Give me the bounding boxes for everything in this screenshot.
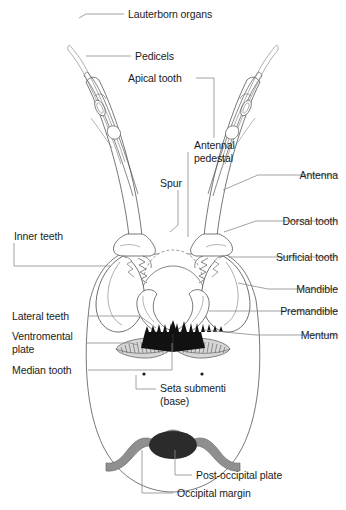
label-spur: Spur	[160, 177, 182, 190]
label-mandible: Mandible	[296, 283, 338, 296]
label-surficial-tooth: Surficial tooth	[276, 251, 338, 264]
label-dorsal-tooth: Dorsal tooth	[283, 215, 338, 228]
label-mentum: Mentum	[301, 329, 338, 342]
label-apical-tooth: Apical tooth	[128, 72, 182, 85]
antennal-pedestal-left	[113, 234, 155, 256]
label-antennal-pedestal: Antennal pedestal	[194, 139, 235, 164]
label-median-tooth: Median tooth	[12, 364, 72, 377]
anatomical-diagram-figure: Lauterborn organsPedicelsApical toothAnt…	[0, 0, 346, 510]
antennal-pedestal-right	[191, 234, 233, 256]
seta-submenti-left	[142, 372, 145, 375]
label-lauterborn-organs: Lauterborn organs	[128, 8, 212, 21]
label-inner-teeth: Inner teeth	[14, 230, 63, 243]
label-seta-submenti: Seta submenti (base)	[160, 382, 226, 407]
leader-inner-teeth	[14, 243, 110, 266]
label-antenna: Antenna	[300, 169, 338, 182]
leader-apical-tooth	[196, 78, 214, 138]
label-premandible: Premandible	[280, 305, 338, 318]
seta-submenti-right	[200, 372, 203, 375]
leader-spur	[170, 190, 178, 232]
leader-lauterborn-organs	[79, 14, 124, 18]
label-ventromental-plate: Ventromental plate	[12, 330, 73, 355]
label-post-occipital-plate: Post-occipital plate	[196, 469, 282, 482]
label-lateral-teeth: Lateral teeth	[12, 310, 69, 323]
label-occipital-margin: Occipital margin	[177, 487, 251, 500]
post-occipital-plate	[149, 431, 197, 459]
label-pedicels: Pedicels	[135, 50, 174, 63]
